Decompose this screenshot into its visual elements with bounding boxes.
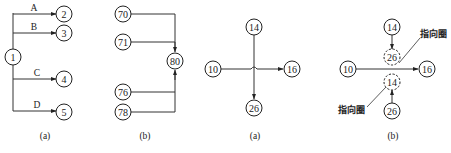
node-70: 70 [115, 6, 131, 22]
node-76: 76 [115, 84, 131, 100]
pointer-circle-14: 14 [384, 74, 400, 90]
leader-bottom [367, 87, 386, 107]
svg-text:14: 14 [387, 22, 397, 33]
svg-text:14: 14 [387, 77, 397, 88]
caption-1a: (a) [40, 131, 51, 142]
caption-2b: (b) [387, 131, 398, 142]
svg-text:3: 3 [62, 28, 67, 39]
node-14: 14 [384, 19, 400, 35]
svg-text:16: 16 [422, 64, 432, 75]
svg-text:26: 26 [249, 103, 259, 114]
node-2: 2 [56, 6, 72, 22]
caption-2a: (a) [250, 131, 261, 142]
svg-text:5: 5 [62, 107, 67, 118]
svg-text:70: 70 [118, 9, 128, 20]
leader-top [399, 38, 420, 63]
figure-1a: A B C D 1 2 3 4 5 (a) [5, 3, 72, 142]
svg-text:26: 26 [387, 106, 397, 117]
figure-1b: 70 71 80 76 78 (b) [115, 6, 183, 142]
node-71: 71 [115, 34, 131, 50]
svg-text:10: 10 [208, 64, 218, 75]
edge-label-c: C [34, 68, 40, 78]
svg-text:16: 16 [287, 64, 297, 75]
svg-text:10: 10 [343, 64, 353, 75]
svg-text:1: 1 [11, 52, 16, 63]
annotation-pointer-circle-bottom: 指向圈 [338, 104, 365, 115]
edge-label-a: A [31, 3, 38, 13]
svg-text:26: 26 [387, 52, 397, 63]
node-5: 5 [56, 104, 72, 120]
figure-2b: 指向圈 指向圈 14 26 10 16 14 26 (b) [338, 19, 447, 142]
node-14: 14 [246, 19, 262, 35]
node-26: 26 [246, 100, 262, 116]
svg-text:4: 4 [62, 74, 67, 85]
network-diagram-canvas: A B C D 1 2 3 4 5 (a) [0, 0, 451, 153]
edge-78-80 [131, 74, 175, 112]
node-4: 4 [56, 71, 72, 87]
node-1: 1 [5, 49, 21, 65]
node-10: 10 [340, 61, 356, 77]
edge-label-d: D [34, 100, 41, 110]
svg-text:14: 14 [249, 22, 259, 33]
svg-text:2: 2 [62, 9, 67, 20]
node-80: 80 [167, 53, 183, 69]
svg-text:71: 71 [118, 37, 128, 48]
edge-70-80 [131, 14, 175, 50]
edge-label-b: B [31, 22, 37, 32]
node-16: 16 [284, 61, 300, 77]
caption-1b: (b) [139, 131, 150, 142]
node-26: 26 [384, 103, 400, 119]
figure-2a: 10 14 16 26 (a) [205, 19, 300, 142]
node-10: 10 [205, 61, 221, 77]
node-16: 16 [419, 61, 435, 77]
node-78: 78 [115, 104, 131, 120]
svg-text:78: 78 [118, 107, 128, 118]
pointer-circle-26: 26 [384, 49, 400, 65]
svg-text:80: 80 [170, 56, 180, 67]
annotation-pointer-circle-top: 指向圈 [420, 28, 447, 39]
node-3: 3 [56, 25, 72, 41]
svg-text:76: 76 [118, 87, 128, 98]
